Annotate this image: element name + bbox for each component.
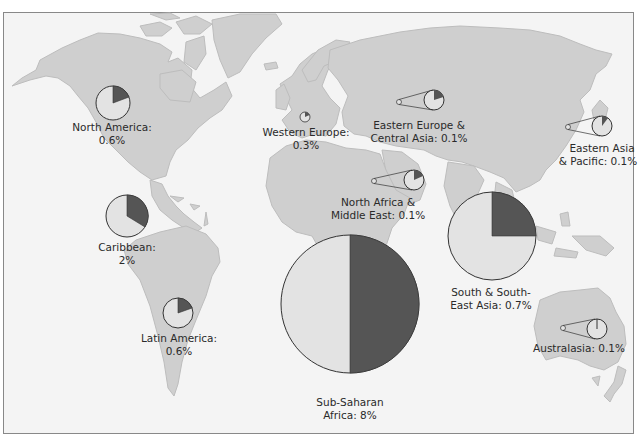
label-north-america-value: 0.6% [99,134,126,146]
label-latin-america-value: 0.6% [166,345,193,357]
label-north-america: North America: [72,121,152,133]
pie-south-southeast-asia [448,192,536,280]
label-caribbean: Caribbean: [98,241,155,253]
label-eastern-europe-value: Central Asia: 0.1% [370,132,467,144]
pie-latin-america [163,298,193,328]
label-eastern-asia: Eastern Asia [569,142,634,154]
label-eastern-asia-value: & Pacific: 0.1% [559,155,637,167]
label-western-europe-value: 0.3% [293,139,320,151]
land-iceland [264,62,278,70]
label-south-southeast-asia: South & South- [451,286,531,298]
label-sub-saharan-africa-value: Africa: 8% [323,409,377,421]
pie-caribbean [106,195,148,237]
label-north-africa: North Africa & [341,196,415,208]
label-south-southeast-asia-value: East Asia: 0.7% [450,299,532,311]
pie-western-europe [300,112,310,122]
label-eastern-europe: Eastern Europe & [373,119,465,131]
label-latin-america: Latin America: [141,332,217,344]
label-western-europe: Western Europe: [263,126,350,138]
label-australasia: Australasia: 0.1% [533,342,625,354]
label-sub-saharan-africa: Sub-Saharan [316,396,383,408]
label-north-africa-value: Middle East: 0.1% [331,209,425,221]
label-caribbean-value: 2% [119,254,136,266]
pie-sub-saharan-africa [281,235,419,373]
world-map-chart: North America: 0.6% Western Europe: 0.3%… [0,0,639,435]
pie-north-america [96,86,130,120]
